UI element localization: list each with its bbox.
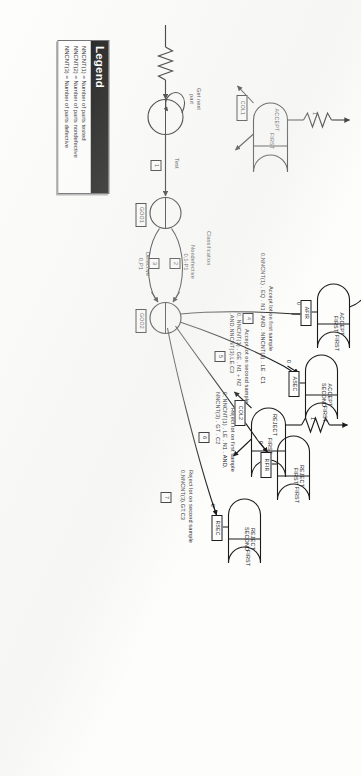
legend-row: NNCNT(3) = Number of parts defective	[62, 46, 71, 188]
branch-mark-0-b: 0	[284, 360, 291, 363]
spec-activity-defective: 0,P1	[136, 235, 143, 293]
label-classification: Classification	[204, 231, 211, 265]
branch-mark-0-c: 0	[256, 441, 263, 444]
diagram-page: Get next part Test 1 Classification Nond…	[0, 0, 361, 776]
label-get-next-part: Get next part	[187, 72, 201, 126]
activity-number-7: 7	[160, 492, 171, 503]
node-tag-afir: AFIR	[300, 300, 311, 326]
label-activity-accept-first-sample: Accept lot on first sample	[266, 286, 273, 351]
spec-activity-reject-second-sample: 0,NNCNT(3).GT.C3	[178, 470, 185, 520]
label-activity-nondefective: Nondefective	[188, 231, 195, 293]
node-tag-col2: COL2	[234, 400, 245, 426]
spec-activity-nondefective: 0,1-P1	[181, 231, 188, 293]
legend-body: NNCNT(1) = Number of parts tested NNCNT(…	[58, 41, 91, 193]
node-tag-goo2: GOO2	[135, 309, 146, 333]
branch-mark-0-d: 0	[208, 504, 215, 507]
activity-number-2: 2	[169, 258, 180, 269]
spec-activity-accept-first-sample: 0,NNCNT(1) . EQ . N1 . AND . NNCNT(3) . …	[258, 253, 265, 384]
node-tag-asec: ASEC	[288, 371, 299, 397]
activity-number-6: 6	[198, 432, 209, 443]
legend-row: NNCNT(1) = Number of parts tested	[79, 46, 88, 188]
node-tag-goo1: GOO1	[135, 203, 146, 227]
activity-number-4: 4	[242, 313, 253, 324]
label-activity-accept-second-sample: Accept lot on second sample	[242, 329, 249, 403]
network-labels: Get next part Test 1 Classification Nond…	[0, 0, 361, 776]
node-gate-col1: FIRST	[268, 124, 274, 158]
node-tag-col1: COL1	[236, 95, 247, 121]
node-gate-afir: FIRST	[333, 326, 339, 360]
node-gate-rsec: FIRST	[244, 541, 250, 575]
branch-mark-1-b: 1	[308, 417, 315, 420]
spec-activity-reject-first-sample: 0, NNCNT(1) . LE . N1 . AND. NNCNT(3) . …	[213, 392, 227, 468]
label-activity-test: Test	[172, 158, 179, 169]
branch-mark-1-a: 1	[310, 112, 317, 115]
spec-activity-accept-second-sample: 0, NNCNT(1) . GE . N1 + N2 .AND.NNCNT(3)…	[227, 313, 241, 386]
activity-number-1: 1	[150, 160, 161, 171]
label-activity-reject-second-sample: Reject lot on second sample	[186, 470, 193, 543]
activity-number-5: 5	[214, 351, 225, 362]
legend-box: Legend NNCNT(1) = Number of parts tested…	[57, 40, 109, 194]
node-tag-rsec: RSEC	[211, 515, 222, 541]
node-gate-asec: FIRST	[321, 397, 327, 431]
legend-title: Legend	[91, 41, 109, 193]
node-gate-col2: FIRST	[266, 429, 272, 463]
node-gate-rfir: FIRST	[293, 478, 299, 512]
legend-row: NNCNT(2) = Number of parts nondefective	[70, 46, 79, 188]
activity-number-3: 3	[148, 258, 159, 269]
